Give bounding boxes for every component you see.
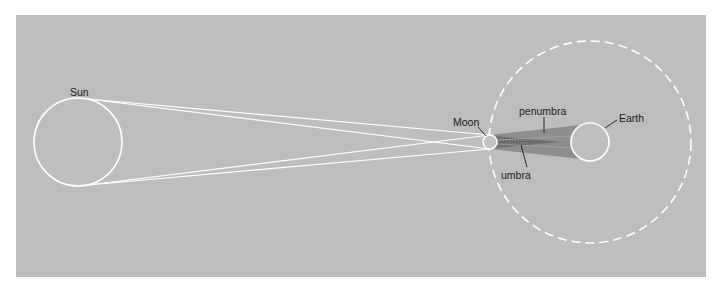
earth-label: Earth <box>619 113 644 124</box>
umbra-label: umbra <box>501 170 531 181</box>
sun-moon-ray <box>88 99 490 135</box>
earth-circle <box>571 123 609 161</box>
sun-moon-ray <box>88 99 490 149</box>
sun-label: Sun <box>70 87 89 98</box>
sun-moon-ray <box>88 149 490 185</box>
sun-circle <box>34 98 122 186</box>
eclipse-diagram <box>0 0 728 288</box>
moon-circle <box>483 135 497 149</box>
earth-leader-line <box>605 120 617 128</box>
penumbra-label: penumbra <box>519 106 566 117</box>
sun-moon-ray <box>88 135 490 185</box>
moon-label: Moon <box>453 117 479 128</box>
